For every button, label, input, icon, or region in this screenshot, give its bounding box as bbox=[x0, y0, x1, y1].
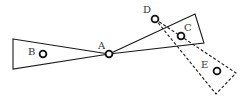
point-c-marker bbox=[178, 33, 185, 40]
point-b-label: B bbox=[28, 46, 35, 57]
dashed-wedge bbox=[155, 19, 236, 94]
point-b: B bbox=[28, 46, 46, 57]
point-a-label: A bbox=[97, 40, 106, 51]
point-d: D bbox=[143, 4, 158, 22]
point-e-label: E bbox=[201, 59, 208, 70]
point-c: C bbox=[178, 22, 192, 39]
point-c-label: C bbox=[184, 22, 192, 33]
point-b-marker bbox=[40, 51, 47, 58]
point-e-marker bbox=[214, 68, 221, 75]
point-d-marker bbox=[152, 16, 159, 23]
point-d-label: D bbox=[143, 4, 151, 15]
diagram-canvas: A B C D E bbox=[0, 0, 247, 101]
point-a-marker bbox=[106, 51, 113, 58]
